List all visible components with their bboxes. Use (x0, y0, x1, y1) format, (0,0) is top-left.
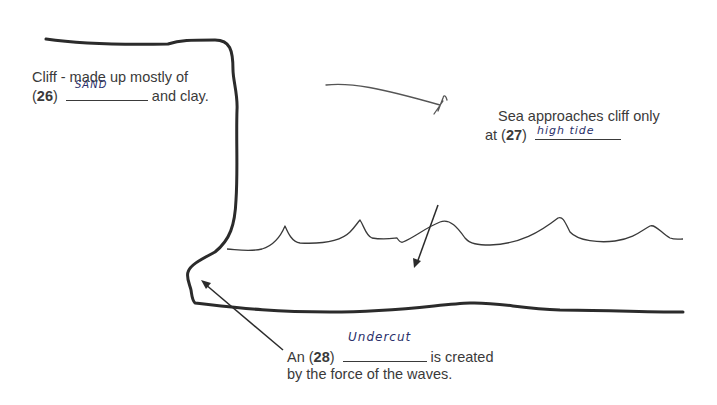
question-number-28: 28 (314, 349, 330, 365)
label-q28: An (28) is created by the force of the w… (287, 347, 493, 383)
label-q26-line1: Cliff - made up mostly of (32, 69, 209, 86)
arrow-to-undercut (205, 284, 283, 350)
handwritten-answer-28: Undercut (348, 330, 411, 344)
handwritten-answer-27: high tide (537, 124, 595, 137)
question-number-27: 27 (506, 127, 522, 143)
label-q27-line1: Sea approaches cliff only (485, 108, 660, 125)
answer-blank-28[interactable] (343, 347, 427, 362)
cliff-diagram (0, 0, 717, 405)
label-q26-suffix: and clay. (152, 88, 209, 104)
label-q28-suffix: is created (431, 349, 494, 365)
label-q28-line2: by the force of the waves. (287, 366, 493, 383)
question-number-26: 26 (37, 88, 53, 104)
stray-pen-mark (326, 84, 447, 114)
arrow-to-sea-head (413, 258, 421, 268)
label-q28-prefix: An ( (287, 349, 314, 365)
sea-wave-line (227, 218, 683, 251)
label-q27-prefix: at ( (485, 127, 506, 143)
arrow-to-sea (417, 205, 438, 263)
label-q28-line1: An (28) is created (287, 347, 493, 366)
handwritten-answer-26: SAND (75, 79, 107, 90)
label-q26: Cliff - made up mostly of (26) and clay. (32, 69, 209, 105)
label-q26-line2: (26) and clay. (32, 86, 209, 105)
